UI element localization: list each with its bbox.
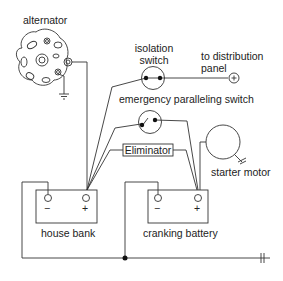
alternator-label: alternator — [23, 14, 67, 26]
cranking-battery-label: cranking battery — [143, 227, 218, 239]
isolation-switch-label-1: isolation — [131, 42, 177, 54]
cranking-battery-minus: − — [154, 202, 160, 214]
emergency-switch-label: emergency paralleling switch — [119, 93, 254, 105]
starter-motor-label: starter motor — [211, 166, 271, 178]
distribution-label-1: to distribution — [201, 50, 263, 62]
house-bank-plus: + — [82, 202, 88, 214]
isolation-switch-label-2: switch — [131, 54, 177, 66]
house-bank-minus: − — [44, 202, 50, 214]
eliminator-label: Eliminator — [123, 144, 173, 156]
distribution-label-2: panel — [201, 62, 227, 74]
cranking-battery-plus: + — [194, 202, 200, 214]
house-bank-label: house bank — [41, 227, 95, 239]
